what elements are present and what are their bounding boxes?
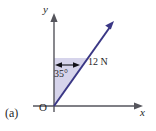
y-axis-label: y — [43, 4, 48, 15]
diagram-canvas — [0, 0, 156, 131]
force-vector-diagram: y x O 35° 12 N (a) — [0, 0, 156, 131]
y-axis-arrowhead — [50, 13, 57, 22]
angle-label: 35° — [54, 69, 68, 79]
force-magnitude-label: 12 N — [88, 57, 108, 67]
origin-label: O — [39, 102, 47, 113]
x-axis-label: x — [140, 107, 145, 118]
force-vector-arrowhead — [105, 21, 114, 30]
part-label: (a) — [5, 107, 18, 119]
